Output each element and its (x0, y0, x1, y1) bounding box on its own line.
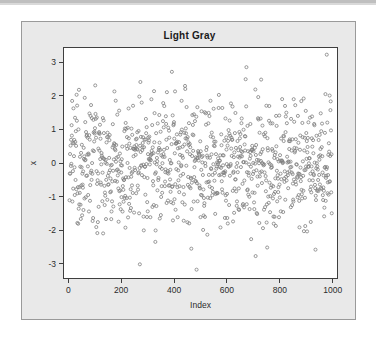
y-tick-label: -3 (48, 259, 56, 269)
x-tick-label: 0 (66, 285, 71, 295)
y-tick-label: 2 (51, 91, 56, 101)
scatter-points (64, 48, 337, 278)
figure-frame: Light Gray 020040060080010003210-1-2-3In… (21, 21, 356, 320)
x-tick-label: 400 (167, 285, 181, 295)
x-tick-label: 600 (220, 285, 234, 295)
y-tick-label: -2 (48, 225, 56, 235)
x-tick-label: 200 (114, 285, 128, 295)
y-tick-label: 0 (51, 158, 56, 168)
x-tick-label: 800 (273, 285, 287, 295)
plot-area[interactable] (63, 47, 338, 279)
x-tick-label: 1000 (323, 285, 342, 295)
page-title: Light Gray (22, 30, 357, 41)
x-axis-title: Index (190, 300, 212, 310)
y-tick-label: -1 (48, 192, 56, 202)
y-tick-label: 3 (51, 57, 56, 67)
y-tick-label: 1 (51, 124, 56, 134)
screenshot-root: Light Gray 020040060080010003210-1-2-3In… (0, 0, 376, 337)
window-top-strip-highlight (0, 3, 376, 5)
y-axis-title: x (28, 160, 38, 165)
